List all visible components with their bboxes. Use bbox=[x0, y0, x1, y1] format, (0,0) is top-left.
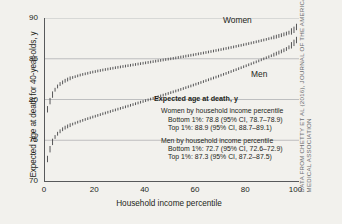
legend-group-men: Men by household income percentile Botto… bbox=[154, 137, 298, 162]
y-tick-75: 75 bbox=[16, 136, 38, 144]
x-tick-60: 60 bbox=[180, 186, 210, 194]
legend-men-bottom: Bottom 1%: 72.7 (95% CI, 72.6–72.9) bbox=[168, 145, 298, 153]
x-tick-40: 40 bbox=[130, 186, 160, 194]
legend-men-heading: Men by household income percentile bbox=[161, 137, 298, 145]
y-tick-70: 70 bbox=[16, 177, 38, 185]
legend-title: Expected age at death, y bbox=[154, 95, 298, 103]
y-tick-80: 80 bbox=[16, 96, 38, 104]
legend-women-top: Top 1%: 88.9 (95% CI, 88.7–89.1) bbox=[168, 124, 298, 132]
x-tick-20: 20 bbox=[79, 186, 109, 194]
legend-men-top: Top 1%: 87.3 (95% CI, 87.2–87.5) bbox=[168, 153, 298, 161]
legend-women-heading: Women by household income percentile bbox=[161, 107, 298, 115]
y-tick-90: 90 bbox=[16, 14, 38, 22]
x-axis-title: Household income percentile bbox=[40, 199, 298, 208]
chart-legend: Expected age at death, y Women by househ… bbox=[154, 95, 298, 162]
y-axis-title: Expected age at death for 40-year-olds, … bbox=[29, 12, 38, 198]
series-label-men: Men bbox=[251, 70, 267, 79]
source-attribution: DATA FROM CHETTY ET AL (2016), JOURNAL O… bbox=[298, 0, 313, 192]
series-label-women: Women bbox=[223, 16, 252, 25]
x-tick-80: 80 bbox=[230, 186, 260, 194]
y-tick-85: 85 bbox=[16, 55, 38, 63]
legend-group-women: Women by household income percentile Bot… bbox=[154, 107, 298, 132]
legend-women-bottom: Bottom 1%: 78.8 (95% CI, 78.7–78.9) bbox=[168, 116, 298, 124]
x-tick-0: 0 bbox=[29, 186, 59, 194]
chart-figure: Expected age at death for 40-year-olds, … bbox=[0, 0, 342, 224]
